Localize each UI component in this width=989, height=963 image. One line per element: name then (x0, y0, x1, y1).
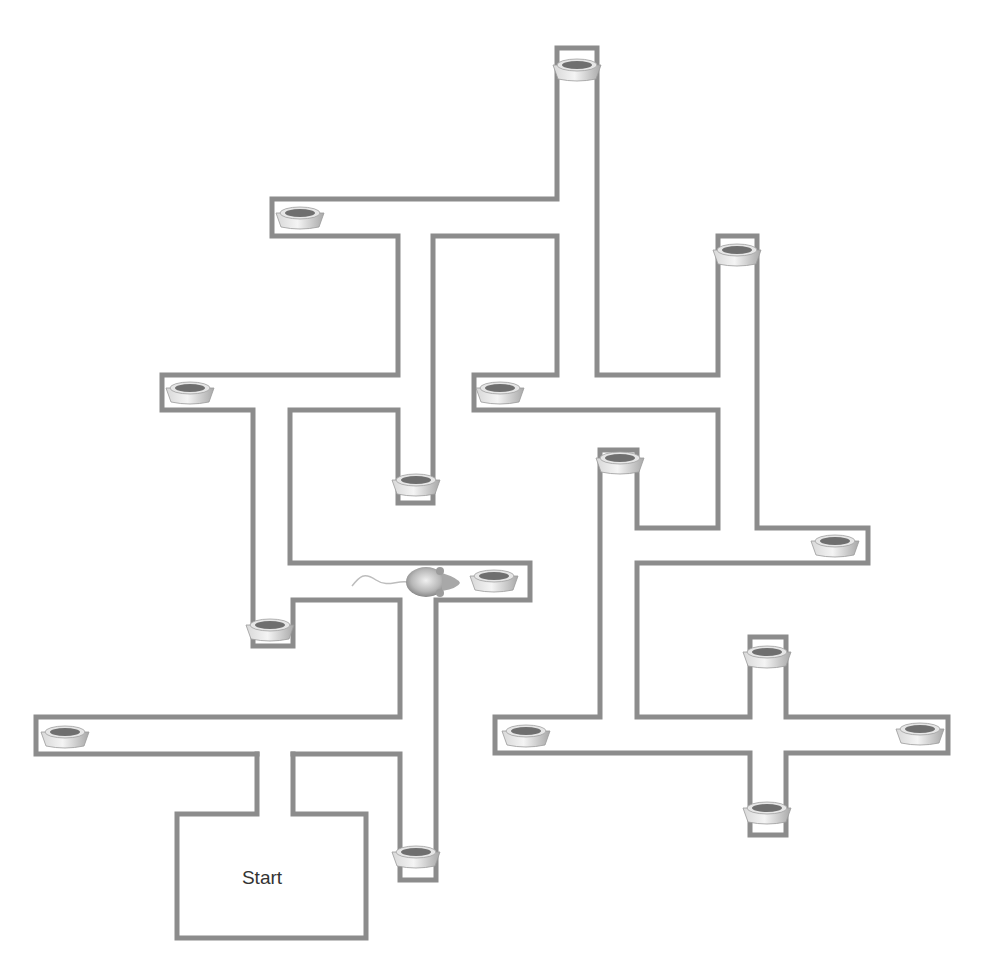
food-bowl-icon (713, 244, 761, 266)
food-bowl-icon (470, 570, 518, 592)
start-label: Start (242, 867, 283, 888)
food-bowl-icon (276, 207, 324, 229)
maze-walls (36, 48, 948, 938)
food-bowl-icon (166, 382, 214, 404)
food-bowl-icon (246, 619, 294, 641)
food-bowl-icon (743, 646, 791, 668)
rat-icon (352, 567, 460, 597)
food-bowl-icon (743, 802, 791, 824)
food-bowl-icon (392, 474, 440, 496)
food-bowl-icon (476, 382, 524, 404)
food-bowl-icon (896, 723, 944, 745)
maze-wall-left-arm-corridor (36, 48, 948, 880)
maze-wall-start-box (177, 754, 366, 938)
maze-diagram: Start (0, 0, 989, 963)
food-bowl-icon (41, 726, 89, 748)
food-bowl-icon (811, 535, 859, 557)
food-bowl-icon (392, 846, 440, 868)
food-bowl-icon (502, 725, 550, 747)
food-bowl-icon (596, 452, 644, 474)
food-bowl-icon (553, 59, 601, 81)
